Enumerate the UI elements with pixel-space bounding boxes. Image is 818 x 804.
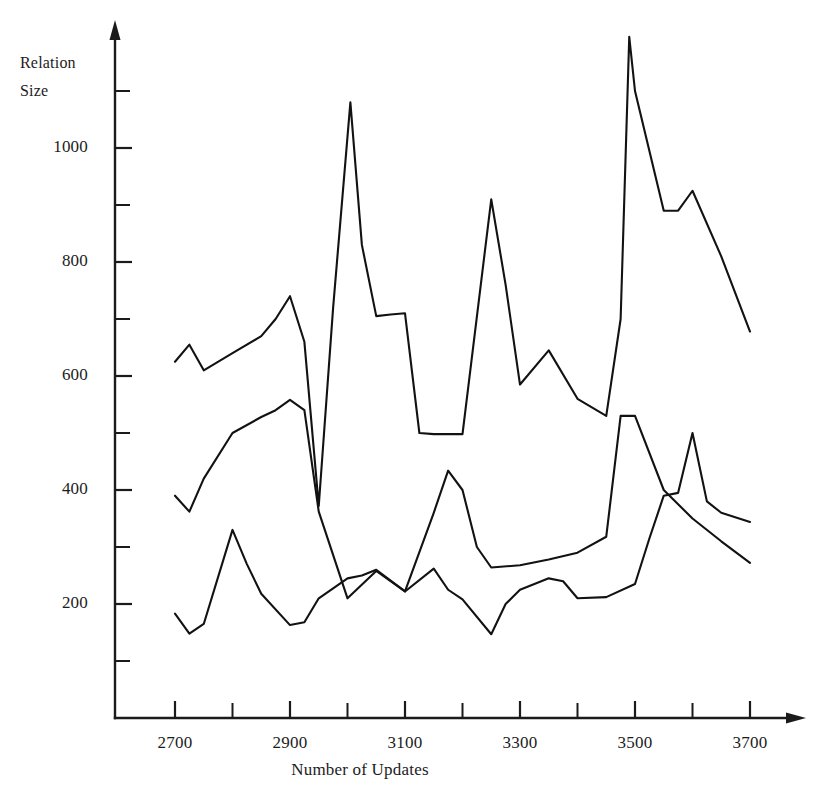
- axes: [110, 20, 807, 724]
- axis-ticks: [115, 91, 750, 718]
- plot-area: [0, 0, 818, 804]
- data-series: [175, 37, 750, 634]
- series-lower-curve: [175, 433, 750, 634]
- chart-container: Relation Size 2004006008001000 270029003…: [0, 0, 818, 804]
- series-upper-curve: [175, 37, 750, 506]
